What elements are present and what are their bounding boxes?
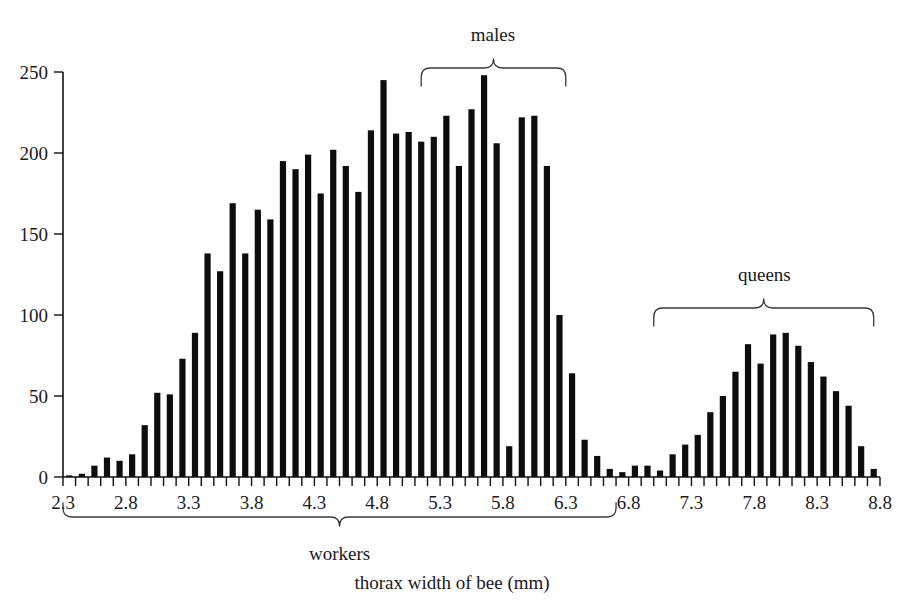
x-axis-tick-label: 5.8 [491,492,515,513]
x-axis-tick-label: 3.8 [240,492,264,513]
histogram-bar [670,454,676,477]
histogram-bar [845,406,851,477]
group-label-workers: workers [309,543,370,564]
histogram-bar [267,219,273,477]
x-axis-tick-label: 4.3 [303,492,327,513]
histogram-bar [230,203,236,477]
histogram-bar [192,333,198,477]
y-axis-tick-label: 200 [20,143,49,164]
histogram-bar [418,142,424,477]
histogram-bar [179,359,185,477]
histogram-bar [242,253,248,477]
histogram-bar [632,466,638,477]
histogram-bar [355,192,361,477]
y-axis-tick-label: 0 [39,467,49,488]
histogram-bar [871,469,877,477]
histogram-bar [682,445,688,477]
histogram-bar [720,396,726,477]
histogram-bar [783,333,789,477]
histogram-bar [154,393,160,477]
group-brace-workers [63,503,616,526]
histogram-bar [280,161,286,477]
histogram-bar [217,271,223,477]
histogram-bar [468,109,474,477]
histogram-bar [707,412,713,477]
histogram-bar [858,446,864,477]
histogram-bar [732,372,738,477]
histogram-bar [91,466,97,477]
histogram-bar [368,130,374,477]
histogram-bar [343,166,349,477]
histogram-bar [569,373,575,477]
histogram-bar [795,346,801,477]
histogram-bar [393,134,399,477]
histogram-bar [519,117,525,477]
histogram-bar [695,435,701,477]
x-axis-tick-label: 4.8 [365,492,389,513]
y-axis-tick-label: 100 [20,305,49,326]
histogram-bar [808,362,814,477]
histogram-bar [431,137,437,477]
group-brace-queens [654,299,874,326]
histogram-bar [318,194,324,478]
x-axis-tick-label: 5.3 [428,492,452,513]
histogram-bar [481,75,487,477]
histogram-bar [167,394,173,477]
histogram-bar [255,210,261,477]
histogram-bar [142,425,148,477]
histogram-bar [531,116,537,477]
histogram-bar [833,391,839,477]
x-axis-tick-label: 2.8 [114,492,138,513]
x-axis-tick-label: 7.8 [742,492,766,513]
x-axis-caption: thorax width of bee (mm) [354,572,549,594]
histogram-bar [745,344,751,477]
histogram-bar [494,143,500,477]
histogram-bar [594,456,600,477]
histogram-bar [380,80,386,477]
histogram-plot-area: 0501001502002502.32.83.33.84.34.85.35.86… [0,0,907,614]
histogram-bar [104,458,110,477]
histogram-bar [406,132,412,477]
y-axis-tick-label: 250 [20,62,49,83]
x-axis-tick-label: 7.3 [680,492,704,513]
x-axis-tick-label: 3.3 [177,492,201,513]
group-label-queens: queens [738,264,791,285]
histogram-bar [506,446,512,477]
histogram-bar [544,166,550,477]
histogram-bar [757,364,763,477]
histogram-chart: 0501001502002502.32.83.33.84.34.85.35.86… [0,0,907,614]
histogram-bar [607,469,613,477]
x-axis-tick-label: 8.8 [868,492,892,513]
histogram-bar [456,166,462,477]
histogram-bar [556,315,562,477]
histogram-bar [204,253,210,477]
group-brace-males [421,59,566,86]
histogram-bar [443,116,449,477]
histogram-bar [582,440,588,477]
x-axis-tick-label: 6.8 [617,492,641,513]
histogram-bar [644,466,650,477]
histogram-bar [305,155,311,477]
x-axis-tick-label: 8.3 [805,492,829,513]
histogram-bar [292,169,298,477]
histogram-bar [330,150,336,477]
group-label-males: males [471,24,515,45]
y-axis-tick-label: 50 [29,386,48,407]
histogram-bar [116,461,122,477]
histogram-bar [657,471,663,477]
histogram-bar [820,377,826,477]
histogram-bar [770,334,776,477]
histogram-bar [129,454,135,477]
x-axis-tick-label: 6.3 [554,492,578,513]
y-axis-tick-label: 150 [20,224,49,245]
